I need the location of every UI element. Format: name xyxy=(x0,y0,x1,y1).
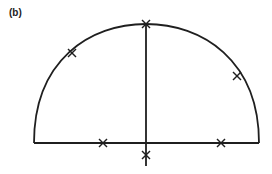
semicircle-diagram xyxy=(0,0,272,174)
cross-markers xyxy=(68,20,241,159)
cross-marker-arc-right xyxy=(233,72,241,80)
